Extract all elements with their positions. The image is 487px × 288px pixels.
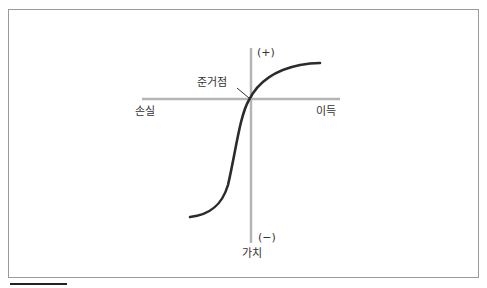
reference-point-label: 준거점 <box>197 76 227 89</box>
reference-point-leader <box>237 88 249 98</box>
gain-label: 이득 <box>316 105 336 118</box>
minus-label: (−) <box>258 231 276 244</box>
loss-label: 손실 <box>135 105 155 118</box>
value-function-diagram: (+) 준거점 손실 이득 (−) 가치 <box>0 0 487 288</box>
value-axis-label: 가치 <box>242 247 262 260</box>
plus-label: (+) <box>257 46 275 59</box>
